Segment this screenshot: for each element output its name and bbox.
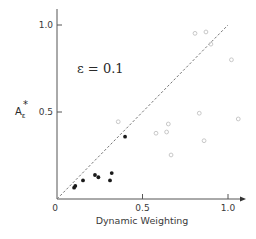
x-axis-arrow-icon — [240, 197, 246, 202]
y-tick-labels: 0.51.0 — [39, 20, 54, 117]
x-tick-label: 0 — [52, 203, 58, 213]
open-data-point — [154, 131, 158, 135]
open-data-point — [236, 117, 240, 121]
y-tick-label: 0.5 — [39, 107, 53, 117]
scatter-chart: ε = 0.1 Dynamic Weighting Aε * 00.51.0 0… — [0, 0, 256, 239]
y-axis-title-superscript: * — [23, 99, 28, 110]
filled-data-point — [123, 135, 127, 139]
x-tick-labels: 00.51.0 — [52, 203, 235, 213]
filled-data-point — [81, 178, 85, 182]
open-data-point — [169, 153, 173, 157]
filled-data-point — [96, 175, 100, 179]
x-tick-label: 1.0 — [221, 203, 236, 213]
axes — [57, 9, 246, 202]
open-data-point — [165, 130, 169, 134]
open-circle-series — [116, 30, 240, 157]
x-axis-title: Dynamic Weighting — [96, 215, 189, 226]
open-data-point — [197, 111, 201, 115]
x-tick-label: 0.5 — [135, 203, 149, 213]
open-data-point — [116, 120, 120, 124]
open-data-point — [230, 58, 234, 62]
y-axis-title-sub: ε — [22, 112, 26, 120]
epsilon-annotation: ε = 0.1 — [77, 61, 124, 76]
filled-data-point — [108, 178, 112, 182]
open-data-point — [193, 31, 197, 35]
filled-circle-series — [72, 135, 127, 190]
open-data-point — [202, 139, 206, 143]
filled-data-point — [73, 184, 77, 188]
filled-data-point — [93, 173, 97, 177]
open-data-point — [166, 122, 170, 126]
y-tick-label: 1.0 — [39, 20, 54, 30]
reference-line-y-equals-x — [57, 25, 228, 199]
open-data-point — [204, 30, 208, 34]
filled-data-point — [110, 171, 114, 175]
dashed-diagonal-line — [57, 25, 228, 199]
